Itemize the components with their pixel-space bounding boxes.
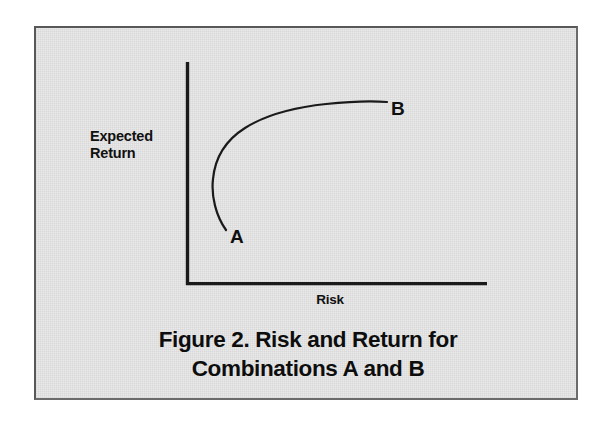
figure-frame: Expected Return Risk A B Figure 2. Risk … — [34, 26, 578, 400]
x-axis-title: Risk — [280, 292, 380, 308]
y-axis-title: Expected Return — [90, 128, 200, 162]
point-b-label: B — [391, 98, 405, 120]
figure-root: Expected Return Risk A B Figure 2. Risk … — [0, 0, 603, 426]
point-a-label: A — [230, 226, 244, 248]
figure-caption: Figure 2. Risk and Return for Combinatio… — [58, 325, 558, 384]
efficient-frontier-curve — [213, 101, 387, 230]
